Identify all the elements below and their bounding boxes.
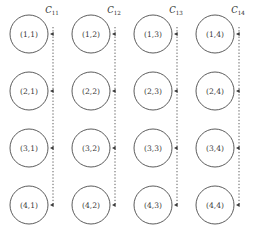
arrow-head-1-2 bbox=[112, 32, 116, 36]
arrow-head-4-4 bbox=[236, 203, 240, 207]
node-label-1-3: (1,3) bbox=[144, 30, 162, 39]
node-label-1-2: (1,2) bbox=[82, 30, 100, 39]
stub-line-group bbox=[50, 32, 240, 207]
arrow-head-1-4 bbox=[236, 32, 240, 36]
node-label-1-1: (1,1) bbox=[20, 30, 38, 39]
node-label-3-1: (3,1) bbox=[20, 144, 38, 153]
arrow-head-2-3 bbox=[174, 89, 178, 93]
node-label-4-2: (4,2) bbox=[82, 201, 100, 210]
node-label-3-4: (3,4) bbox=[206, 144, 224, 153]
bus-label-group: C11C12C13C14 bbox=[45, 5, 245, 16]
node-label-2-2: (2,2) bbox=[82, 87, 100, 96]
arrow-head-1-1 bbox=[50, 32, 54, 36]
arrow-head-2-2 bbox=[112, 89, 116, 93]
arrow-head-4-3 bbox=[174, 203, 178, 207]
bus-line-group bbox=[53, 27, 239, 205]
node-label-2-3: (2,3) bbox=[144, 87, 162, 96]
arrow-head-4-2 bbox=[112, 203, 116, 207]
arrow-head-2-4 bbox=[236, 89, 240, 93]
node-label-4-4: (4,4) bbox=[206, 201, 224, 210]
node-label-3-3: (3,3) bbox=[144, 144, 162, 153]
diagram-canvas: (1,1)(1,2)(1,3)(1,4)(2,1)(2,2)(2,3)(2,4)… bbox=[0, 0, 261, 243]
bus-label-c12: C12 bbox=[107, 5, 121, 16]
arrow-head-1-3 bbox=[174, 32, 178, 36]
arrow-head-4-1 bbox=[50, 203, 54, 207]
node-label-4-1: (4,1) bbox=[20, 201, 38, 210]
arrow-head-3-1 bbox=[50, 146, 54, 150]
node-label-2-4: (2,4) bbox=[206, 87, 224, 96]
grid-bus-diagram: (1,1)(1,2)(1,3)(1,4)(2,1)(2,2)(2,3)(2,4)… bbox=[0, 0, 261, 243]
node-label-4-3: (4,3) bbox=[144, 201, 162, 210]
arrow-head-2-1 bbox=[50, 89, 54, 93]
node-group: (1,1)(1,2)(1,3)(1,4)(2,1)(2,2)(2,3)(2,4)… bbox=[10, 15, 234, 224]
bus-label-c11: C11 bbox=[45, 5, 59, 16]
arrow-head-3-4 bbox=[236, 146, 240, 150]
bus-label-c14: C14 bbox=[231, 5, 245, 16]
arrow-head-3-2 bbox=[112, 146, 116, 150]
arrow-head-3-3 bbox=[174, 146, 178, 150]
node-label-3-2: (3,2) bbox=[82, 144, 100, 153]
node-label-1-4: (1,4) bbox=[206, 30, 224, 39]
node-label-2-1: (2,1) bbox=[20, 87, 38, 96]
bus-label-c13: C13 bbox=[169, 5, 183, 16]
